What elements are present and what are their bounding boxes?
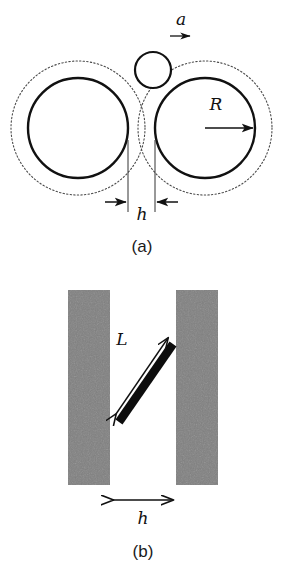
label-L: L <box>115 329 127 349</box>
caption-panel-b: (b) <box>133 542 154 561</box>
figure-container: a R h (a) L h (b) <box>0 0 284 570</box>
figure-svg: a R h (a) L h (b) <box>0 0 284 570</box>
right-plate <box>176 290 218 485</box>
left-plate <box>68 290 110 485</box>
caption-panel-a: (a) <box>132 237 153 256</box>
small-particle-circle <box>135 52 171 88</box>
label-h-panel-a: h <box>137 204 148 224</box>
label-a: a <box>176 9 186 29</box>
label-R: R <box>209 94 223 114</box>
label-h-panel-b: h <box>138 508 149 528</box>
